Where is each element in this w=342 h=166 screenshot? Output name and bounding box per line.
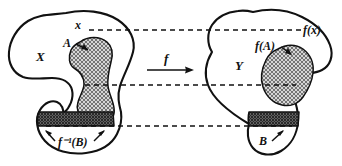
codomain-set-label-Y: Y <box>235 58 244 73</box>
figure-canvas: x X A f⁻¹(B) <box>0 0 342 166</box>
codomain-blob-group: f(x) Y f(A) B <box>206 10 332 155</box>
preimage-B-label: f⁻¹(B) <box>58 135 88 149</box>
subset-B-label: B <box>258 134 267 148</box>
mapping-arrow-label-f: f <box>164 51 170 66</box>
subset-A-label: A <box>62 36 71 50</box>
mapping-arrow-group: f <box>147 51 194 74</box>
mapping-arrow-head <box>185 67 194 74</box>
image-fA-region <box>262 45 314 105</box>
domain-blob-outline-X <box>9 11 134 153</box>
function-mapping-diagram: x X A f⁻¹(B) <box>0 0 342 166</box>
codomain-point-label-fx: f(x) <box>303 23 321 37</box>
domain-blob-group: x X A f⁻¹(B) <box>9 11 134 153</box>
preimage-B-band <box>37 112 114 126</box>
domain-point-label-x: x <box>74 18 81 32</box>
domain-set-label-X: X <box>35 49 45 64</box>
subset-B-band <box>248 112 299 126</box>
image-fA-label: f(A) <box>255 39 275 53</box>
